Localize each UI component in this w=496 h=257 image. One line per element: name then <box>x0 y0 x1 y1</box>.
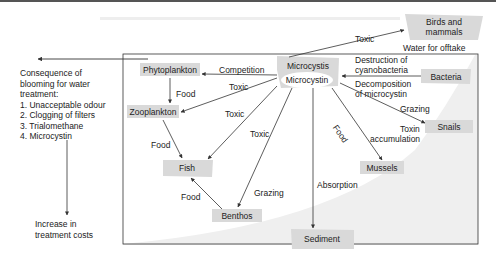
fish-node: Fish <box>163 161 211 175</box>
birds-label-line2: mammals <box>426 27 463 37</box>
edge-label-destruction-1: Destruction of <box>355 55 407 65</box>
edge-label-food-zoo-fish: Food <box>151 140 170 150</box>
consequences-title-2: blooming for water <box>20 79 106 90</box>
edge-label-competition: Competition <box>219 65 264 75</box>
microcystis-node: Microcystis <box>277 60 339 72</box>
snails-node: Snails <box>425 120 473 133</box>
consequences-title-3: treatment: <box>20 89 106 100</box>
zooplankton-node: Zooplankton <box>127 105 179 118</box>
phytoplankton-node: Phytoplankton <box>140 63 200 76</box>
edge-label-toxin: Toxin <box>400 124 420 134</box>
edge-label-absorption: Absorption <box>317 180 358 190</box>
birds-and-mammals-node: Birds and mammals <box>405 14 483 40</box>
consequences-block: Consequence of blooming for water treatm… <box>20 68 106 142</box>
edge-label-grazing-snails: Grazing <box>400 104 430 114</box>
edge-label-decomposition-2: of microcystin <box>355 89 407 99</box>
edge-label-toxic-fish-2: Toxic <box>250 129 269 139</box>
consequence-item: 3. Trialomethane <box>20 121 106 132</box>
water-offtake-label: Water for offtake <box>403 43 465 53</box>
consequence-item: 4. Microcystin <box>20 131 106 142</box>
edge-label-toxic-birds: Toxic <box>355 34 374 44</box>
mussels-node: Mussels <box>360 161 404 174</box>
consequence-item: 2. Clogging of filters <box>20 110 106 121</box>
consequence-item: 1. Unacceptable odour <box>20 100 106 111</box>
edge-label-toxic-zoo: Toxic <box>229 82 248 92</box>
edge-label-accumulation: accumulation <box>370 134 420 144</box>
cost-line-1: Increase in <box>35 219 93 230</box>
benthos-node: Benthos <box>212 209 262 222</box>
microcystin-node: Microcystin <box>281 75 333 85</box>
sediment-node: Sediment <box>291 231 353 247</box>
edge-label-destruction-2: cyanobacteria <box>355 65 408 75</box>
edge-label-toxic-fish-1: Toxic <box>225 109 244 119</box>
birds-label-line1: Birds and <box>426 17 462 27</box>
treatment-cost-block: Increase in treatment costs <box>35 219 93 240</box>
edge-label-food-benthos-fish: Food <box>181 192 200 202</box>
edge-label-grazing-benthos: Grazing <box>254 188 284 198</box>
cost-line-2: treatment costs <box>35 230 93 241</box>
bacteria-node: Bacteria <box>421 69 471 84</box>
consequences-title-1: Consequence of <box>20 68 106 79</box>
edge-label-food-phyto-zoo: Food <box>176 89 195 99</box>
edge-label-decomposition-1: Decomposition <box>355 79 411 89</box>
